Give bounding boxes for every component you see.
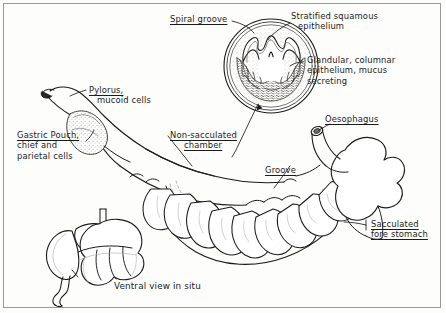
anatomical-figure: Spiral groove Stratified squamous epithe…: [0, 0, 446, 313]
label-sacculated-fore-stomach: Sacculated fore stomach: [371, 219, 428, 240]
label-spiral-groove: Spiral groove: [170, 14, 227, 24]
label-groove: Groove: [265, 165, 296, 175]
label-non-sacculated-chamber: Non-sacculated chamber: [170, 130, 237, 151]
label-oesophagus: Oesophagus: [325, 114, 378, 124]
inset-ventral-view: [46, 209, 143, 307]
label-stratified-squamous-epithelium: Stratified squamous epithelium: [291, 11, 378, 32]
cross-section-diagram: [224, 19, 318, 157]
label-ventral-view-caption: Ventral view in situ: [114, 281, 201, 291]
label-glandular-columnar-epithelium: Glandular, columnar epithelium, mucus se…: [307, 55, 395, 86]
label-pylorus-mucoid-cells: Pylorus, mucoid cells: [89, 85, 151, 106]
label-gastric-pouch: Gastric Pouch, chief and parietal cells: [17, 130, 79, 161]
